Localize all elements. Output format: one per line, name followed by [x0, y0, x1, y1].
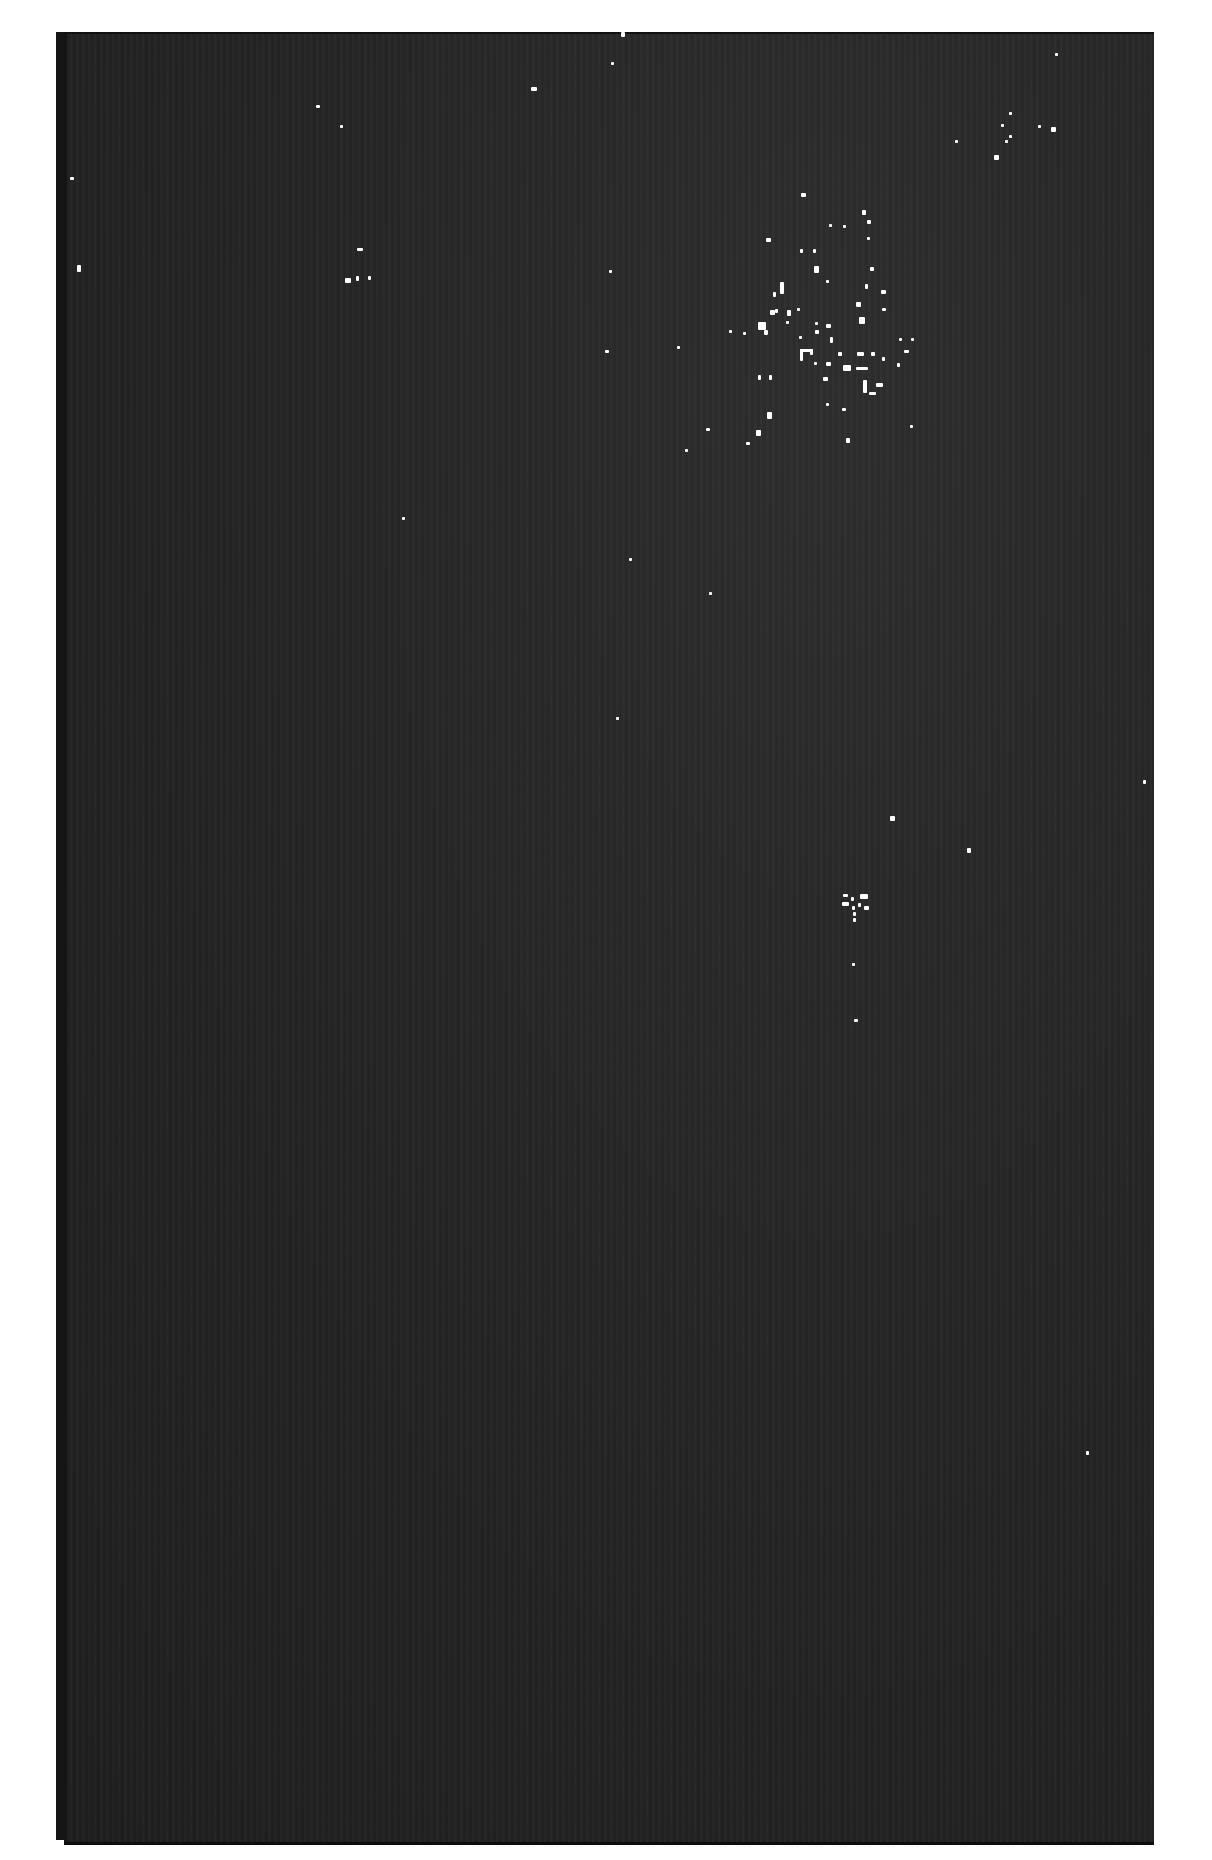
star	[843, 225, 846, 228]
star	[797, 308, 800, 311]
star	[899, 338, 902, 341]
star	[815, 330, 819, 334]
star	[852, 906, 855, 910]
star	[860, 894, 868, 899]
star	[729, 330, 732, 333]
star	[843, 365, 851, 371]
star	[758, 375, 761, 380]
star	[77, 265, 81, 272]
star	[758, 322, 766, 330]
star	[869, 392, 876, 395]
star	[853, 918, 856, 922]
star	[856, 367, 868, 370]
star	[876, 383, 883, 387]
star	[356, 276, 359, 281]
star	[1001, 124, 1004, 127]
star	[800, 249, 803, 253]
star	[867, 220, 871, 224]
star	[830, 337, 833, 343]
star	[1143, 780, 1146, 784]
star	[863, 380, 867, 393]
star	[904, 350, 909, 353]
star	[910, 425, 913, 428]
star	[685, 449, 688, 452]
star	[826, 403, 829, 406]
star	[843, 894, 848, 897]
star	[357, 248, 363, 251]
star-field-plate	[64, 32, 1154, 1845]
star	[799, 336, 802, 339]
star	[616, 717, 619, 720]
star	[316, 105, 320, 108]
star	[787, 310, 791, 316]
star	[629, 558, 632, 561]
star	[368, 276, 371, 280]
star	[851, 897, 854, 901]
star	[858, 903, 861, 907]
star	[780, 282, 784, 294]
star	[814, 266, 819, 273]
star	[766, 238, 771, 242]
star	[70, 177, 74, 180]
star	[826, 280, 829, 283]
star	[829, 224, 832, 227]
star	[813, 249, 816, 253]
star	[862, 210, 866, 215]
star	[994, 155, 999, 160]
star	[605, 350, 609, 353]
star	[764, 330, 768, 335]
star	[706, 428, 710, 431]
star	[1009, 112, 1012, 115]
star	[870, 267, 874, 271]
star	[1038, 125, 1041, 128]
star	[775, 309, 778, 313]
star	[846, 438, 850, 443]
star	[1051, 127, 1056, 132]
star	[859, 317, 865, 324]
star	[611, 62, 614, 65]
star	[769, 375, 772, 380]
star	[853, 912, 856, 916]
star	[890, 816, 895, 821]
star	[955, 140, 958, 143]
star	[746, 442, 750, 445]
star	[911, 338, 914, 341]
star	[1055, 53, 1058, 56]
star	[871, 352, 875, 356]
star	[967, 848, 971, 853]
star	[621, 32, 625, 37]
star	[609, 270, 612, 273]
star	[826, 362, 831, 366]
star	[856, 302, 861, 307]
star	[773, 292, 776, 297]
star	[345, 278, 351, 283]
star	[1009, 135, 1012, 138]
star	[852, 963, 855, 966]
star	[743, 332, 746, 335]
star	[865, 284, 868, 289]
star	[756, 430, 761, 436]
star	[864, 906, 869, 910]
star	[842, 902, 849, 906]
star	[881, 290, 886, 294]
star	[767, 412, 772, 419]
star	[857, 352, 864, 356]
star	[842, 408, 846, 411]
star	[897, 363, 900, 367]
star	[810, 349, 813, 355]
image-canvas	[0, 0, 1212, 1860]
star	[882, 357, 885, 361]
star	[815, 322, 818, 325]
star	[786, 321, 789, 324]
star	[1086, 1451, 1089, 1455]
star	[826, 324, 831, 328]
star	[1005, 140, 1008, 143]
star	[801, 193, 806, 197]
star	[867, 237, 870, 240]
star	[340, 125, 343, 128]
star	[838, 352, 842, 356]
star	[823, 377, 828, 381]
star	[814, 362, 817, 365]
star	[677, 346, 680, 349]
star	[531, 87, 537, 91]
